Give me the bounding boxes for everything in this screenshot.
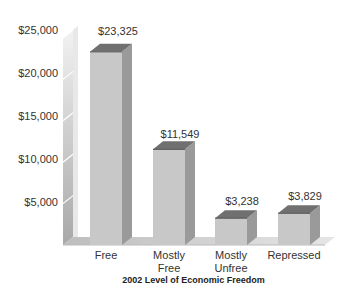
x-label-line: Free bbox=[158, 262, 181, 274]
x-label-free: Free bbox=[71, 249, 141, 262]
x-axis-title: 2002 Level of Economic Freedom bbox=[0, 275, 347, 285]
y-tick-label-25000: $25,000 bbox=[0, 24, 58, 36]
y-tick-label-5000: $5,000 bbox=[0, 196, 58, 208]
chart-plot-area bbox=[0, 0, 347, 291]
x-label-repressed: Repressed bbox=[259, 249, 329, 262]
bar-front bbox=[215, 218, 247, 245]
bar-chart: $25,000 $20,000 $15,000 $10,000 $5,000 $… bbox=[0, 0, 347, 291]
x-label-line: Free bbox=[95, 249, 118, 261]
value-label-mostly-unfree: $3,238 bbox=[212, 195, 272, 207]
bar-front bbox=[278, 213, 310, 245]
x-label-line: Mostly bbox=[215, 249, 247, 261]
bar-side bbox=[122, 44, 132, 245]
value-label-repressed: $3,829 bbox=[275, 190, 335, 202]
bar-front bbox=[153, 149, 185, 245]
x-label-line: Repressed bbox=[267, 249, 320, 261]
y-axis-wall bbox=[63, 30, 73, 245]
y-tick-label-20000: $20,000 bbox=[0, 67, 58, 79]
x-label-mostly-unfree: Mostly Unfree bbox=[196, 249, 266, 275]
value-label-mostly-free: $11,549 bbox=[150, 128, 210, 140]
x-label-mostly-free: Mostly Free bbox=[134, 249, 204, 275]
value-label-free: $23,325 bbox=[88, 25, 148, 37]
bar-side bbox=[185, 141, 195, 245]
x-label-line: Mostly bbox=[153, 249, 185, 261]
bar-front bbox=[90, 52, 122, 245]
y-tick-label-10000: $10,000 bbox=[0, 153, 58, 165]
y-tick-label-15000: $15,000 bbox=[0, 110, 58, 122]
x-label-line: Unfree bbox=[214, 262, 247, 274]
y-axis-wall-edge bbox=[73, 26, 78, 237]
